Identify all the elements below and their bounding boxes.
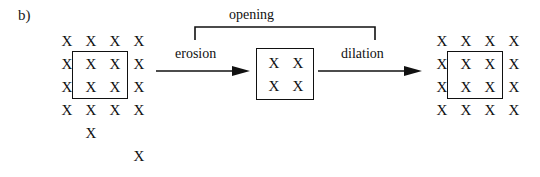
grid-cell: X <box>454 99 478 122</box>
grid-cell: X <box>79 122 103 145</box>
grid-cell <box>79 145 103 168</box>
grid-cell: X <box>502 76 526 99</box>
grid-cell: X <box>127 145 151 168</box>
grid-cell <box>103 122 127 145</box>
grid-cell: X <box>127 30 151 53</box>
panel-label: b) <box>18 8 31 23</box>
grid-cell <box>55 122 79 145</box>
dilation-arrow-icon <box>318 65 422 77</box>
grid-cell <box>127 122 151 145</box>
grid-cell: X <box>430 30 454 53</box>
grid-cell: X <box>430 99 454 122</box>
grid-cell: X <box>55 30 79 53</box>
grid-cell: X <box>502 30 526 53</box>
grid-cell <box>103 145 127 168</box>
opening-label: opening <box>229 8 274 22</box>
structuring-element-box-after-dilation <box>447 51 503 99</box>
grid-cell <box>55 145 79 168</box>
grid-cell: X <box>79 99 103 122</box>
erosion-label: erosion <box>175 47 216 61</box>
grid-cell: X <box>478 30 502 53</box>
grid-cell: X <box>103 99 127 122</box>
structuring-element-box-after-erosion <box>256 48 314 100</box>
grid-cell: X <box>79 30 103 53</box>
grid-cell: X <box>502 99 526 122</box>
grid-cell: X <box>127 53 151 76</box>
grid-cell: X <box>55 99 79 122</box>
opening-bracket-icon <box>194 26 376 40</box>
dilation-label: dilation <box>341 47 384 61</box>
grid-cell: X <box>478 99 502 122</box>
grid-cell: X <box>127 76 151 99</box>
structuring-element-box-input <box>72 51 128 99</box>
figure-panel-b: b) X X X X X X X X X X X X X X X X X X e… <box>0 0 540 177</box>
grid-cell: X <box>454 30 478 53</box>
grid-cell: X <box>127 99 151 122</box>
erosion-arrow-icon <box>156 65 250 77</box>
grid-cell: X <box>502 53 526 76</box>
grid-cell: X <box>103 30 127 53</box>
